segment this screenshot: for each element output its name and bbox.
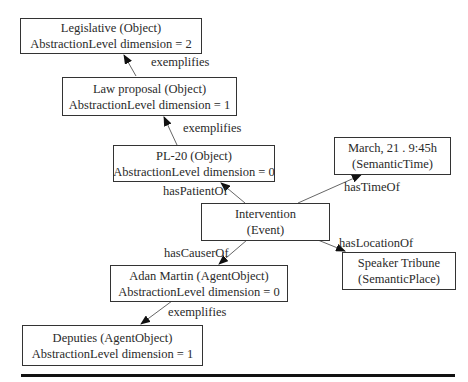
edge-pl20-to-law: [164, 117, 177, 145]
edge-label-has-patient-of: hasPatientOf: [163, 184, 228, 198]
node-pl20: PL-20 (Object) AbstractionLevel dimensio…: [113, 145, 275, 182]
node-subtitle: (Event): [247, 222, 284, 238]
node-title: Intervention: [235, 206, 296, 222]
node-title: Adan Martin (AgentObject): [129, 268, 269, 284]
node-deputies: Deputies (AgentObject) AbstractionLevel …: [22, 325, 203, 366]
node-subtitle: AbstractionLevel dimension = 0: [113, 164, 275, 180]
node-subtitle: AbstractionLevel dimension = 2: [30, 36, 192, 52]
node-subtitle: AbstractionLevel dimension = 1: [32, 346, 194, 362]
node-time: March, 21 . 9:45h (SemanticTime): [334, 137, 451, 175]
bottom-rule: [21, 374, 455, 377]
node-place: Speaker Tribune (SemanticPlace): [342, 252, 456, 290]
node-intervention: Intervention (Event): [201, 203, 330, 241]
edge-law-to-legislative: [124, 55, 136, 76]
node-legislative: Legislative (Object) AbstractionLevel di…: [20, 18, 202, 54]
node-title: Speaker Tribune: [358, 255, 440, 271]
node-title: Deputies (AgentObject): [53, 330, 173, 346]
node-law-proposal: Law proposal (Object) AbstractionLevel d…: [62, 77, 237, 116]
edge-label-has-location-of: hasLocationOf: [339, 236, 413, 250]
edge-label-law-to-legislative: exemplifies: [151, 55, 209, 69]
node-subtitle: AbstractionLevel dimension = 1: [69, 97, 231, 113]
node-title: Legislative (Object): [61, 20, 161, 36]
edge-label-pl20-to-law: exemplifies: [183, 121, 241, 135]
node-subtitle: (SemanticPlace): [358, 271, 440, 287]
node-subtitle: AbstractionLevel dimension = 0: [118, 284, 280, 300]
edge-label-adan-to-deputies: exemplifies: [168, 305, 226, 319]
node-title: March, 21 . 9:45h: [348, 140, 437, 156]
node-title: PL-20 (Object): [156, 148, 232, 164]
node-title: Law proposal (Object): [93, 81, 206, 97]
node-adan-martin: Adan Martin (AgentObject) AbstractionLev…: [110, 265, 288, 302]
node-subtitle: (SemanticTime): [352, 156, 433, 172]
edge-label-has-time-of: hasTimeOf: [344, 180, 400, 194]
edge-label-has-causer-of: hasCauserOf: [164, 246, 229, 260]
